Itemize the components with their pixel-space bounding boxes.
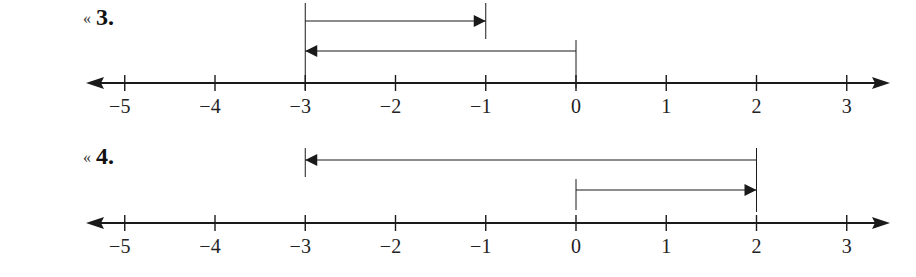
tick-label: 0 <box>571 95 581 117</box>
tick-label: −3 <box>290 235 311 257</box>
tick-label: −4 <box>199 95 220 117</box>
tick-label: −1 <box>470 95 491 117</box>
problem-4: « 4. −5−4−3−2−10123 <box>83 143 890 257</box>
number-line-figure: « 3. −5−4−3−2−10123 « 4. −5−4−3−2−10123 <box>0 0 916 277</box>
tick-label: −5 <box>109 95 130 117</box>
problem-4-vectors <box>305 148 756 212</box>
tick-label: 0 <box>571 235 581 257</box>
problem-3-number-line: −5−4−3−2−10123 <box>86 75 890 117</box>
problem-4-number-line: −5−4−3−2−10123 <box>86 215 890 257</box>
tick-label: −2 <box>380 95 401 117</box>
problem-3-marker: « <box>83 10 91 27</box>
tick-label: −3 <box>290 95 311 117</box>
tick-label: 2 <box>752 95 762 117</box>
problem-3-number: 3. <box>96 4 114 30</box>
problem-4-number: 4. <box>96 143 114 169</box>
tick-label: −2 <box>380 235 401 257</box>
problem-3-vectors <box>305 3 576 90</box>
tick-label: 1 <box>661 95 671 117</box>
problem-3: « 3. −5−4−3−2−10123 <box>83 3 890 117</box>
tick-label: 3 <box>842 95 852 117</box>
tick-label: 3 <box>842 235 852 257</box>
tick-label: −1 <box>470 235 491 257</box>
tick-label: 1 <box>661 235 671 257</box>
tick-label: −4 <box>199 235 220 257</box>
problem-4-marker: « <box>83 149 91 166</box>
tick-label: −5 <box>109 235 130 257</box>
tick-label: 2 <box>752 235 762 257</box>
